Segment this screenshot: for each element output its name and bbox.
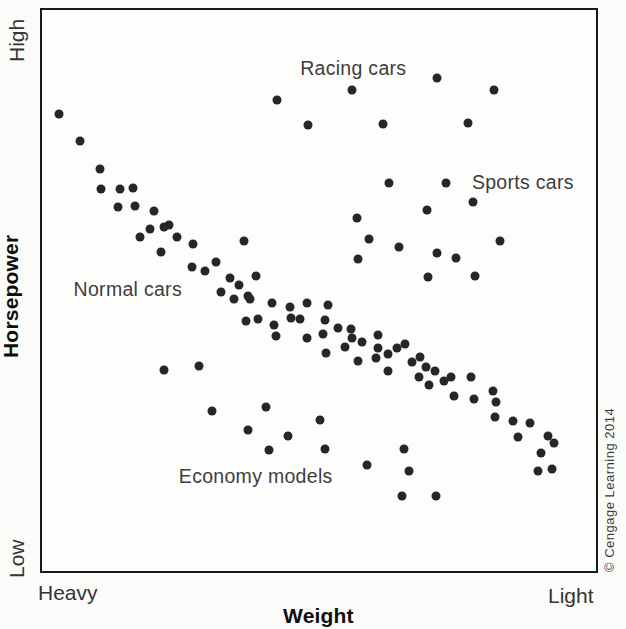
data-point	[514, 432, 523, 441]
data-point	[302, 333, 311, 342]
data-point	[318, 329, 327, 338]
data-point	[346, 324, 355, 333]
data-point	[115, 184, 124, 193]
data-point	[450, 391, 459, 400]
cluster-label-normal: Normal cars	[74, 278, 182, 301]
cluster-label-sports: Sports cars	[472, 171, 574, 194]
cluster-label-racing: Racing cars	[300, 57, 406, 80]
data-point	[371, 354, 380, 363]
data-point	[425, 381, 434, 390]
plot-area: Racing carsSports carsNormal carsEconomy…	[40, 8, 598, 573]
data-point	[302, 298, 311, 307]
data-point	[352, 213, 361, 222]
data-point	[525, 418, 534, 427]
data-point	[200, 266, 209, 275]
x-right-label: Light	[548, 584, 594, 608]
data-point	[397, 492, 406, 501]
data-point	[96, 184, 105, 193]
data-point	[373, 330, 382, 339]
data-point	[451, 253, 460, 262]
data-point	[470, 271, 479, 280]
data-point	[365, 235, 374, 244]
data-point	[286, 302, 295, 311]
data-point	[416, 352, 425, 361]
data-point	[408, 358, 417, 367]
data-point	[129, 183, 138, 192]
data-point	[433, 249, 442, 258]
data-point	[466, 373, 475, 382]
data-point	[431, 367, 440, 376]
data-point	[323, 301, 332, 310]
data-point	[95, 164, 104, 173]
data-point	[194, 362, 203, 371]
data-point	[341, 342, 350, 351]
data-point	[150, 207, 159, 216]
data-point	[491, 398, 500, 407]
data-point	[534, 466, 543, 475]
data-point	[509, 417, 518, 426]
data-point	[243, 426, 252, 435]
data-point	[353, 255, 362, 264]
data-point	[239, 237, 248, 246]
data-point	[252, 271, 261, 280]
data-point	[234, 280, 243, 289]
data-point	[211, 258, 220, 267]
data-point	[490, 413, 499, 422]
y-bottom-label: Low	[5, 539, 29, 578]
data-point	[537, 448, 546, 457]
data-point	[379, 120, 388, 129]
data-point	[54, 110, 63, 119]
data-point	[253, 314, 262, 323]
data-point	[548, 465, 557, 474]
data-point	[433, 74, 442, 83]
data-point	[321, 444, 330, 453]
data-point	[135, 233, 144, 242]
data-point	[262, 403, 271, 412]
data-point	[316, 416, 325, 425]
data-point	[333, 323, 342, 332]
data-point	[470, 395, 479, 404]
data-point	[269, 320, 278, 329]
data-point	[146, 225, 155, 234]
data-point	[441, 178, 450, 187]
data-point	[229, 294, 238, 303]
data-point	[401, 340, 410, 349]
data-point	[347, 333, 356, 342]
data-point	[488, 387, 497, 396]
data-point	[188, 262, 197, 271]
credit-line: © Cengage Learning 2014	[602, 408, 617, 572]
data-point	[415, 373, 424, 382]
data-point	[283, 431, 292, 440]
data-point	[400, 444, 409, 453]
data-point	[392, 343, 401, 352]
data-point	[242, 316, 251, 325]
cluster-label-economy: Economy models	[179, 465, 333, 488]
data-point	[225, 274, 234, 283]
x-axis-title: Weight	[283, 604, 354, 628]
data-point	[550, 439, 559, 448]
data-point	[75, 137, 84, 146]
data-point	[469, 198, 478, 207]
data-point	[159, 366, 168, 375]
data-point	[246, 294, 255, 303]
data-point	[353, 356, 362, 365]
data-point	[495, 237, 504, 246]
data-point	[207, 407, 216, 416]
data-point	[422, 363, 431, 372]
data-point	[362, 460, 371, 469]
data-point	[216, 288, 225, 297]
x-left-label: Heavy	[38, 581, 98, 605]
data-point	[164, 221, 173, 230]
data-point	[446, 373, 455, 382]
data-point	[395, 243, 404, 252]
data-point	[273, 96, 282, 105]
data-point	[357, 337, 366, 346]
data-point	[423, 205, 432, 214]
data-point	[157, 248, 166, 257]
data-point	[385, 178, 394, 187]
data-point	[424, 273, 433, 282]
data-point	[347, 85, 356, 94]
data-point	[431, 492, 440, 501]
data-point	[489, 86, 498, 95]
data-point	[287, 313, 296, 322]
